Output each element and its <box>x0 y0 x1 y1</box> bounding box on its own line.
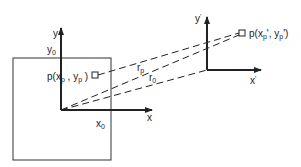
frame1-point-label: p(xp , yp ) <box>47 71 88 84</box>
frame2-point-label: p(xp', yp') <box>249 28 288 41</box>
frame1-y-axis-label: y <box>53 28 58 39</box>
point-p-prime-marker <box>239 30 245 36</box>
frame1-y0-label: y0 <box>47 44 56 56</box>
rp-label: rp <box>137 62 144 75</box>
frame2-x-axis-label: x' <box>250 75 256 86</box>
frame1-x0-label: x0 <box>96 118 105 130</box>
dashed-line-p-to-p-prime <box>98 33 239 75</box>
coordinate-transform-diagram: y y0 p(xp , yp ) x0 x rp r0 y' x' p(xp',… <box>0 0 301 167</box>
point-p-marker <box>92 72 98 78</box>
r0-label: r0 <box>149 72 156 84</box>
frame2-y-axis-label: y' <box>195 13 201 24</box>
frame1-x-axis-label: x <box>147 112 152 123</box>
